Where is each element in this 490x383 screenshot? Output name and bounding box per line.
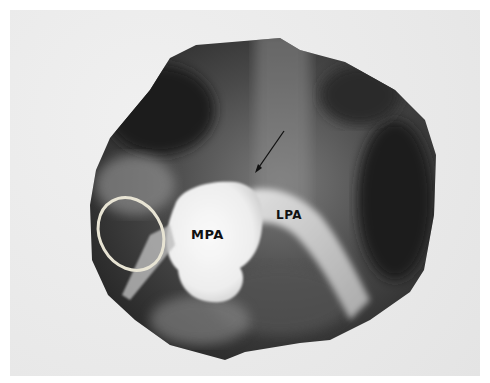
mpa-label: MPA bbox=[191, 227, 224, 242]
angiogram-image bbox=[0, 0, 490, 383]
film-region bbox=[90, 30, 436, 360]
lpa-label: LPA bbox=[276, 208, 302, 222]
